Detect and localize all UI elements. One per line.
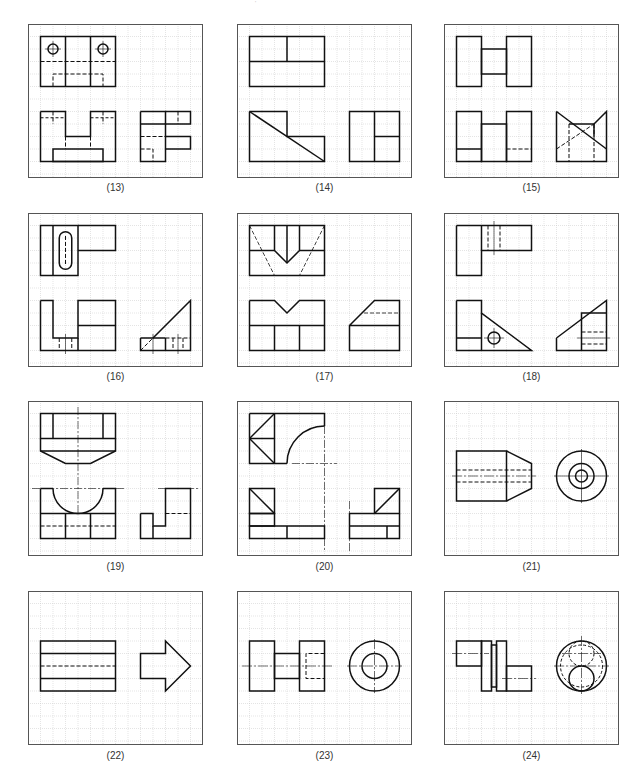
drawing-panel-19	[28, 401, 203, 555]
orthographic-views-22	[28, 591, 203, 745]
panel-label-19: (19)	[28, 561, 203, 572]
page-header-fragment: '	[255, 0, 256, 6]
drawing-panel-20	[237, 401, 412, 555]
drawing-panel-18	[444, 213, 619, 367]
orthographic-views-14	[237, 24, 412, 178]
orthographic-views-19	[28, 401, 203, 556]
panel-label-14: (14)	[237, 182, 412, 193]
orthographic-views-21	[444, 401, 619, 556]
panel-label-16: (16)	[28, 371, 203, 382]
drawing-panel-13	[28, 24, 203, 178]
drawing-panel-15	[444, 24, 619, 178]
drawing-panel-16	[28, 213, 203, 367]
drawing-panel-17	[237, 213, 412, 367]
orthographic-views-17	[237, 213, 412, 367]
panel-label-21: (21)	[444, 561, 619, 572]
orthographic-views-23	[237, 591, 412, 745]
orthographic-views-15	[444, 24, 619, 178]
orthographic-views-24	[444, 591, 619, 745]
drawing-panel-23	[237, 591, 412, 745]
panel-label-17: (17)	[237, 371, 412, 382]
panel-label-18: (18)	[444, 371, 619, 382]
orthographic-views-13	[28, 24, 203, 178]
orthographic-views-16	[28, 213, 203, 367]
panel-label-13: (13)	[28, 182, 203, 193]
panel-label-24: (24)	[444, 750, 619, 761]
panel-label-15: (15)	[444, 182, 619, 193]
drawing-panel-14	[237, 24, 412, 178]
orthographic-views-20	[237, 401, 412, 556]
orthographic-views-18	[444, 213, 619, 367]
drawing-panel-21	[444, 401, 619, 555]
panel-label-22: (22)	[28, 750, 203, 761]
drawing-panel-24	[444, 591, 619, 745]
panel-label-23: (23)	[237, 750, 412, 761]
drawing-panel-22	[28, 591, 203, 745]
panel-label-20: (20)	[237, 561, 412, 572]
